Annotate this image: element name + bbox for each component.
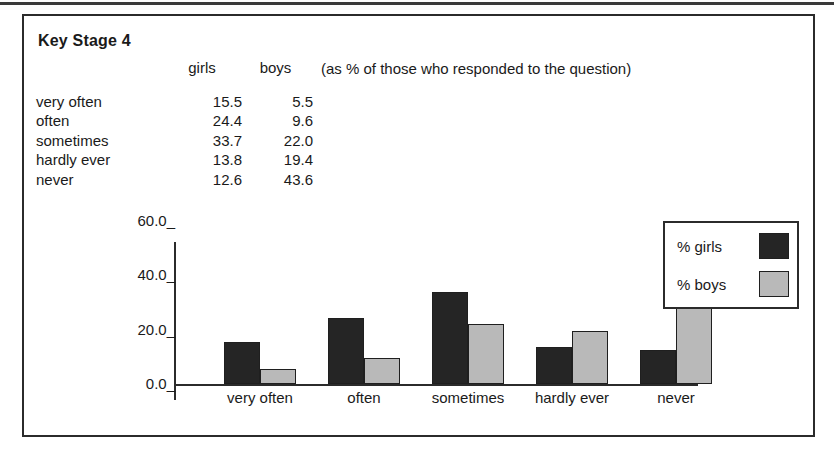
page-title: Key Stage 4 [38, 32, 131, 50]
y-axis-line [174, 242, 176, 400]
row-value-girls: 12.6 [168, 170, 242, 190]
bar-boys [260, 369, 296, 384]
y-axis-tick-label: 20.0_ [73, 322, 175, 337]
bar-girls [328, 318, 364, 384]
legend-item-girls: % girls [677, 231, 789, 261]
table-row: often 24.4 9.6 [36, 111, 313, 131]
table-row: sometimes 33.7 22.0 [36, 131, 313, 151]
x-axis-line [174, 384, 698, 386]
bar-group [224, 221, 296, 384]
top-divider-rule [0, 2, 834, 5]
table-body: girls boys very often 15.5 5.5 often 24.… [36, 58, 313, 189]
bar-group [432, 221, 504, 384]
row-value-boys: 5.5 [242, 92, 313, 112]
bar-boys [468, 324, 504, 384]
row-value-boys: 19.4 [242, 150, 313, 170]
row-value-girls: 24.4 [168, 111, 242, 131]
y-axis-tick-label: 0.0_ [73, 376, 175, 391]
table-header-girls: girls [168, 58, 242, 92]
y-axis-tick-label: 60.0_ [73, 213, 175, 228]
x-axis-label: never [622, 389, 730, 406]
data-table: girls boys very often 15.5 5.5 often 24.… [36, 58, 313, 189]
table-note: (as % of those who responded to the ques… [321, 60, 631, 77]
bar-girls [432, 292, 468, 384]
y-axis-tick-label: 40.0_ [73, 267, 175, 282]
bar-group [328, 221, 400, 384]
table-row: never 12.6 43.6 [36, 170, 313, 190]
legend-label-girls: % girls [677, 238, 722, 255]
x-axis-label: hardly ever [518, 389, 626, 406]
x-axis-label: sometimes [414, 389, 522, 406]
x-axis-label: very often [206, 389, 314, 406]
content-panel: Key Stage 4 girls boys very often 15.5 5… [22, 14, 815, 437]
row-label: hardly ever [36, 150, 168, 170]
row-value-boys: 22.0 [242, 131, 313, 151]
table-row: hardly ever 13.8 19.4 [36, 150, 313, 170]
row-label: very often [36, 92, 168, 112]
legend-swatch-girls [759, 233, 789, 259]
row-value-girls: 15.5 [168, 92, 242, 112]
row-label: sometimes [36, 131, 168, 151]
bar-girls [224, 342, 260, 384]
row-value-boys: 9.6 [242, 111, 313, 131]
bar-boys [364, 358, 400, 384]
chart-plot-area: 60.0_40.0_20.0_0.0_ very oftenoftensomet… [60, 221, 760, 421]
row-value-girls: 33.7 [168, 131, 242, 151]
row-value-girls: 13.8 [168, 150, 242, 170]
legend-item-boys: % boys [677, 269, 789, 299]
legend-swatch-boys [759, 271, 789, 297]
bar-girls [640, 350, 676, 384]
row-label: often [36, 111, 168, 131]
legend-label-boys: % boys [677, 276, 726, 293]
bar-group [536, 221, 608, 384]
row-value-boys: 43.6 [242, 170, 313, 190]
row-label: never [36, 170, 168, 190]
bar-girls [536, 347, 572, 384]
table-header-boys: boys [242, 58, 313, 92]
table-header-row: girls boys [36, 58, 313, 92]
table-header-blank [36, 58, 168, 92]
x-axis-label: often [310, 389, 418, 406]
table-row: very often 15.5 5.5 [36, 92, 313, 112]
bar-series-container [176, 221, 698, 386]
chart-legend: % girls % boys [663, 221, 799, 309]
bar-boys [572, 331, 608, 384]
